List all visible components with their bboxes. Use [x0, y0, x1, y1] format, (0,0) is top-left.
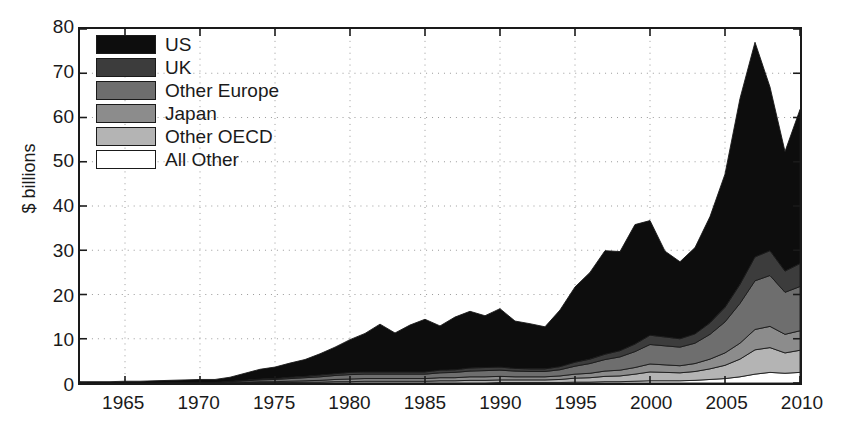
legend-label: Japan — [165, 104, 217, 123]
legend-label: UK — [165, 58, 191, 77]
legend-swatch-icon — [96, 127, 156, 146]
x-tick-label: 1975 — [239, 392, 309, 414]
legend-item: All Other — [96, 148, 279, 170]
y-tick-label: 10 — [28, 330, 74, 349]
y-axis-title: $ billions — [19, 114, 40, 244]
x-tick-label: 1995 — [541, 392, 611, 414]
legend-label: All Other — [165, 150, 239, 169]
chart-page: 80706050403020100 $ billions 19651970197… — [0, 0, 849, 442]
legend-swatch-icon — [96, 104, 156, 123]
x-axis: 1965197019751980198519901995200020052010 — [0, 392, 849, 422]
legend-label: US — [165, 35, 191, 54]
x-tick-label: 1980 — [315, 392, 385, 414]
x-tick-label: 1970 — [164, 392, 234, 414]
y-tick-label: 20 — [28, 286, 74, 305]
legend-swatch-icon — [96, 58, 156, 77]
y-tick-label: 30 — [28, 241, 74, 260]
y-tick-label: 70 — [28, 62, 74, 81]
legend-swatch-icon — [96, 81, 156, 100]
legend-item: Other Europe — [96, 79, 279, 101]
legend-label: Other Europe — [165, 81, 279, 100]
legend-item: Japan — [96, 102, 279, 124]
y-tick-label: 80 — [28, 17, 74, 36]
legend-item: Other OECD — [96, 125, 279, 147]
legend-swatch-icon — [96, 35, 156, 54]
chart-legend: USUKOther EuropeJapanOther OECDAll Other — [96, 33, 279, 171]
legend-swatch-icon — [96, 150, 156, 169]
x-tick-label: 1965 — [88, 392, 158, 414]
x-tick-label: 2000 — [616, 392, 686, 414]
x-tick-label: 2010 — [767, 392, 837, 414]
legend-item: UK — [96, 56, 279, 78]
legend-item: US — [96, 33, 279, 55]
legend-label: Other OECD — [165, 127, 273, 146]
x-tick-label: 1985 — [390, 392, 460, 414]
x-tick-label: 1990 — [465, 392, 535, 414]
x-tick-label: 2005 — [692, 392, 762, 414]
